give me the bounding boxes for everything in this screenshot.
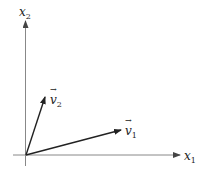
v2-label: v2 [50, 94, 62, 109]
v1-label: v1 [125, 125, 137, 140]
vector-v1 [26, 130, 121, 155]
vector-plot [0, 0, 202, 173]
x2-axis-label: x2 [19, 6, 31, 21]
vector-v2 [26, 97, 45, 155]
x1-axis-label: x1 [184, 150, 196, 165]
